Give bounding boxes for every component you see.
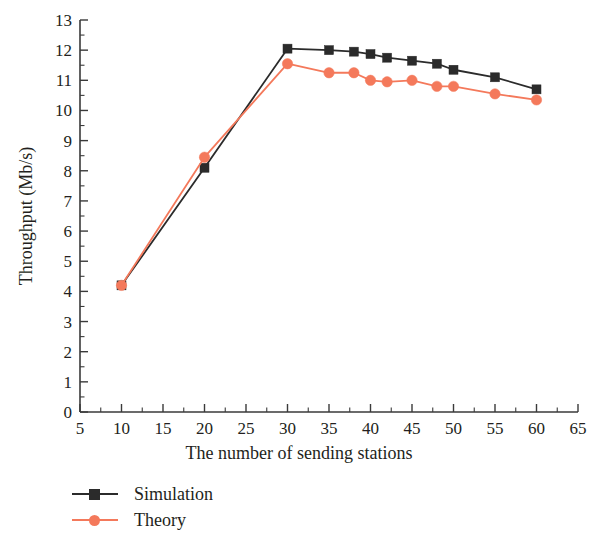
data-point	[199, 152, 209, 162]
x-tick-label: 30	[279, 420, 296, 437]
data-point	[200, 163, 209, 172]
chart-legend: SimulationTheory	[72, 484, 213, 530]
x-tick-label: 65	[570, 420, 587, 437]
data-point	[448, 81, 458, 91]
y-tick-label: 8	[64, 162, 73, 179]
data-point	[432, 81, 442, 91]
x-tick-label: 20	[196, 420, 213, 437]
x-axis-title: The number of sending stations	[0, 443, 598, 464]
chart-series-theory	[116, 59, 541, 291]
data-point	[349, 68, 359, 78]
data-point	[383, 53, 392, 62]
x-tick-label: 10	[113, 420, 130, 437]
legend-swatch-square-icon	[72, 486, 118, 502]
x-tick-label: 15	[155, 420, 172, 437]
data-point	[432, 59, 441, 68]
legend-item-simulation[interactable]: Simulation	[72, 484, 213, 504]
x-tick-label: 45	[404, 420, 421, 437]
data-point	[325, 46, 334, 55]
x-tick-label: 40	[362, 420, 379, 437]
chart-series-simulation	[117, 44, 541, 290]
y-tick-label: 2	[64, 343, 73, 360]
y-tick-label: 3	[64, 313, 73, 330]
y-tick-label: 12	[55, 42, 72, 59]
data-point	[531, 95, 541, 105]
data-point	[349, 47, 358, 56]
legend-label: Simulation	[134, 484, 213, 505]
y-tick-label: 5	[64, 253, 73, 270]
y-tick-label: 6	[64, 223, 73, 240]
y-tick-label: 10	[55, 102, 72, 119]
x-tick-label: 35	[321, 420, 338, 437]
legend-marker-circle-icon	[89, 515, 100, 526]
data-point	[532, 85, 541, 94]
throughput-chart-figure: 012345678910111213 510152025303540455055…	[0, 0, 598, 540]
data-point	[366, 50, 375, 59]
y-tick-label: 1	[64, 373, 73, 390]
data-point	[365, 75, 375, 85]
x-tick-label: 50	[445, 420, 462, 437]
y-tick-label: 4	[64, 283, 73, 300]
legend-swatch-circle-icon	[72, 512, 118, 528]
data-point	[324, 68, 334, 78]
data-point	[382, 77, 392, 87]
data-point	[116, 280, 126, 290]
legend-label: Theory	[134, 510, 186, 531]
data-point	[282, 59, 292, 69]
y-tick-label: 0	[64, 404, 73, 421]
data-point	[490, 89, 500, 99]
y-tick-label: 9	[64, 132, 73, 149]
x-tick-label: 60	[528, 420, 545, 437]
data-point	[491, 73, 500, 82]
legend-item-theory[interactable]: Theory	[72, 510, 213, 530]
x-tick-label: 25	[238, 420, 255, 437]
y-axis-title: Throughput (Mb/s)	[16, 147, 37, 286]
legend-marker-square-icon	[89, 489, 100, 500]
data-point	[449, 65, 458, 74]
x-tick-label: 55	[487, 420, 504, 437]
data-point	[407, 75, 417, 85]
x-tick-label: 5	[76, 420, 85, 437]
y-tick-label: 7	[64, 192, 73, 209]
y-tick-label: 11	[56, 72, 72, 89]
data-point	[408, 56, 417, 65]
y-tick-label: 13	[55, 12, 72, 29]
data-point	[283, 44, 292, 53]
